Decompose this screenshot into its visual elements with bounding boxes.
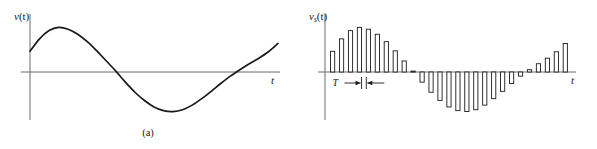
sample-pulse [375, 34, 379, 72]
panel-a-y-axis-label: v(t) [14, 11, 29, 22]
sample-pulse [518, 72, 522, 76]
sample-pulse [447, 72, 451, 107]
panel-b-pulse-train [331, 27, 568, 111]
sample-pulse [492, 72, 496, 99]
sample-pulse [331, 51, 335, 72]
figure-sampled-signal: v(t) t (a) vs(t) T t (b) [0, 0, 597, 149]
panel-b-y-axis-label-arg: (t) [317, 10, 327, 22]
sample-pulse [483, 72, 487, 105]
sample-pulse [429, 72, 433, 92]
panel-a-waveform-curve [30, 27, 278, 111]
period-arrow-head-right [356, 81, 361, 86]
sample-pulse [384, 42, 388, 72]
sample-pulse [402, 61, 406, 72]
sample-pulse [348, 31, 352, 72]
sample-pulse [339, 39, 343, 72]
sample-pulse [474, 72, 478, 110]
panel-b-sampled-signal: vs(t) T t (b) [300, 0, 597, 149]
sample-pulse [545, 58, 549, 72]
panel-b-y-axis-label: vs(t) [309, 11, 327, 23]
sample-pulse [554, 52, 558, 72]
sample-pulse [563, 43, 567, 72]
sampling-period-annotation [345, 77, 385, 89]
sample-pulse [420, 72, 424, 82]
sample-pulse [456, 72, 460, 111]
sample-pulse [536, 64, 540, 72]
sample-pulse [509, 72, 513, 84]
sample-pulse [438, 72, 442, 101]
sample-pulse [501, 72, 505, 91]
panel-b-plot [300, 0, 597, 149]
panel-a-x-axis-label: t [271, 75, 274, 86]
sample-pulse [411, 71, 415, 72]
panel-a-caption: (a) [118, 128, 178, 139]
sample-pulse [465, 72, 469, 112]
sample-pulse [366, 29, 370, 72]
sample-pulse [393, 51, 397, 72]
sample-pulse [357, 27, 361, 72]
panel-b-x-axis-label: t [571, 75, 574, 86]
panel-a-continuous-signal: v(t) t (a) [0, 0, 300, 149]
sample-pulse [527, 70, 531, 72]
sampling-period-label: T [333, 78, 339, 88]
panel-a-y-axis-label-arg: (t) [19, 10, 29, 22]
